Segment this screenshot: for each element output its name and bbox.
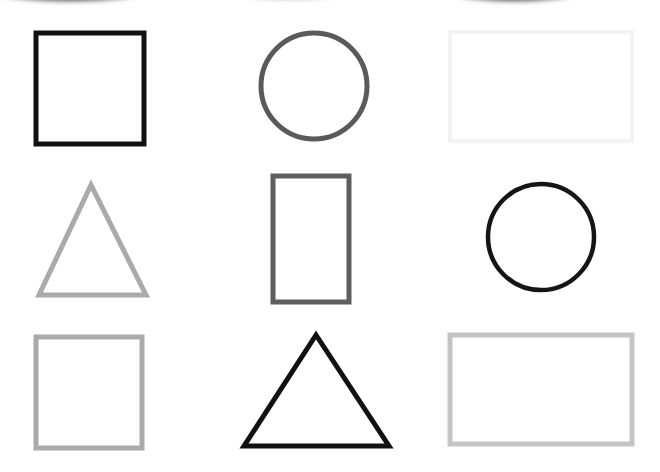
triangle-black (244, 335, 389, 446)
cropped-shape-left (0, 0, 140, 1)
cropped-shape-right (455, 0, 575, 1)
rectangle-very-light-gray (450, 32, 632, 141)
rectangle-tall-dark-gray (273, 176, 349, 302)
rectangle-light-gray (450, 335, 632, 444)
circle-black (488, 184, 594, 290)
top-edge-cropped-shapes (0, 0, 575, 1)
shapes-canvas (0, 0, 660, 472)
circle-dark-gray (261, 33, 367, 139)
square-black (36, 33, 144, 144)
triangle-light-gray (39, 185, 146, 295)
square-light-gray (36, 337, 142, 448)
